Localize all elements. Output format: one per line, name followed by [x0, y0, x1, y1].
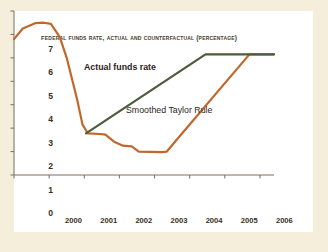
series-line-actual-funds-rate: [14, 23, 274, 152]
series-label-actual-funds-rate: Actual funds rate: [84, 62, 156, 72]
x-tick-2006: 2006: [276, 216, 293, 225]
chart-panel: Federal funds rate, actual and counterfa…: [14, 11, 313, 232]
x-tick-2002: 2002: [135, 216, 152, 225]
x-tick-2001: 2001: [100, 216, 117, 225]
plot-area: [14, 11, 276, 177]
x-axis-tick-labels: 2000200120022003200420052006: [56, 215, 316, 229]
y-tick-1: 1: [41, 185, 53, 195]
x-tick-2004: 2004: [206, 216, 223, 225]
series-label-smoothed-taylor-rule: Smoothed Taylor Rule: [126, 105, 212, 115]
data-series: [14, 23, 274, 152]
chart-screenshot: Federal funds rate, actual and counterfa…: [0, 0, 328, 252]
axes: [11, 11, 275, 179]
x-tick-2005: 2005: [241, 216, 258, 225]
y-tick-0: 0: [41, 208, 53, 218]
x-tick-2003: 2003: [171, 216, 188, 225]
x-tick-2000: 2000: [65, 216, 82, 225]
